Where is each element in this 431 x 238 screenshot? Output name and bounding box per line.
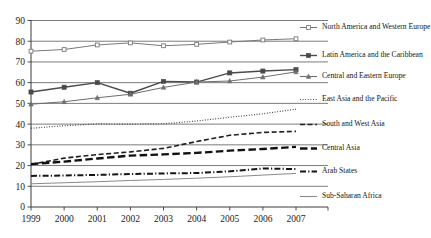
legend-label: Central Asia bbox=[322, 143, 360, 152]
data-point-marker bbox=[62, 85, 66, 89]
series-north-america-and-western-europe bbox=[29, 37, 298, 53]
data-point-marker bbox=[294, 37, 298, 41]
y-tick-labels: 0102030405060708090 bbox=[16, 16, 26, 213]
x-tick-label: 2000 bbox=[55, 214, 74, 224]
data-point-marker bbox=[95, 81, 99, 85]
y-tick-label: 40 bbox=[16, 120, 26, 130]
legend-item-north-america-and-western-europe[interactable]: North America and Western Europe bbox=[300, 22, 431, 31]
chart-container: 0102030405060708090 19992000200120022003… bbox=[0, 0, 431, 238]
data-point-marker bbox=[261, 69, 265, 73]
y-axis bbox=[28, 20, 32, 207]
x-tick-label: 2005 bbox=[220, 214, 239, 224]
legend-label: Sub-Saharan Africa bbox=[322, 191, 382, 200]
y-tick-label: 50 bbox=[16, 99, 26, 109]
data-point-marker bbox=[29, 49, 33, 53]
y-tick-label: 70 bbox=[16, 57, 26, 67]
legend-swatch-marker bbox=[306, 53, 310, 57]
series-south-and-west-asia bbox=[31, 131, 296, 164]
series-central-and-eastern-europe bbox=[29, 69, 299, 106]
y-tick-label: 60 bbox=[16, 78, 26, 88]
y-tick-label: 20 bbox=[16, 161, 26, 171]
x-tick-labels: 199920002001200220032004200520062007 bbox=[22, 214, 306, 224]
data-point-marker bbox=[128, 41, 132, 45]
series-arab-states bbox=[31, 168, 296, 175]
legend-label: Central and Eastern Europe bbox=[322, 71, 406, 80]
x-tick-label: 1999 bbox=[22, 214, 41, 224]
x-tick-label: 2004 bbox=[187, 214, 206, 224]
data-point-marker bbox=[29, 90, 33, 94]
y-tick-label: 90 bbox=[16, 16, 26, 26]
legend-label: North America and Western Europe bbox=[322, 22, 431, 31]
legend-label: South and West Asia bbox=[322, 119, 385, 128]
series-line bbox=[31, 168, 296, 175]
legend-swatch-marker bbox=[307, 26, 311, 30]
legend-item-arab-states[interactable]: Arab States bbox=[300, 166, 357, 175]
data-point-marker bbox=[195, 42, 199, 46]
data-point-marker bbox=[228, 71, 232, 75]
series-line bbox=[31, 131, 296, 164]
chart-legend: North America and Western EuropeLatin Am… bbox=[300, 22, 431, 200]
y-tick-label: 10 bbox=[16, 182, 26, 192]
legend-label: East Asia and the Pacific bbox=[322, 94, 398, 103]
data-point-marker bbox=[162, 44, 166, 48]
legend-item-latin-america-and-the-caribbean[interactable]: Latin America and the Caribbean bbox=[300, 50, 423, 59]
legend-label: Latin America and the Caribbean bbox=[322, 50, 423, 59]
x-axis bbox=[31, 207, 328, 211]
series-line bbox=[31, 147, 296, 164]
legend-item-east-asia-and-the-pacific[interactable]: East Asia and the Pacific bbox=[300, 94, 398, 103]
legend-item-sub-saharan-africa[interactable]: Sub-Saharan Africa bbox=[300, 191, 382, 200]
x-tick-label: 2003 bbox=[154, 214, 173, 224]
data-point-marker bbox=[261, 38, 265, 42]
legend-label: Arab States bbox=[322, 166, 357, 175]
x-tick-label: 2002 bbox=[121, 214, 140, 224]
x-tick-label: 2001 bbox=[88, 214, 107, 224]
data-point-marker bbox=[62, 48, 66, 52]
series-line bbox=[31, 109, 296, 128]
line-chart: 0102030405060708090 19992000200120022003… bbox=[0, 0, 431, 238]
data-point-marker bbox=[228, 40, 232, 44]
data-point-marker bbox=[95, 43, 99, 47]
series-latin-america-and-the-caribbean bbox=[29, 68, 298, 96]
series-east-asia-and-the-pacific bbox=[31, 109, 296, 128]
y-tick-label: 30 bbox=[16, 140, 26, 150]
data-series-group bbox=[29, 37, 299, 184]
legend-item-central-and-eastern-europe[interactable]: Central and Eastern Europe bbox=[300, 71, 406, 80]
x-tick-label: 2007 bbox=[287, 214, 306, 224]
y-tick-label: 0 bbox=[20, 202, 25, 212]
x-tick-label: 2006 bbox=[253, 214, 272, 224]
data-point-marker bbox=[161, 79, 165, 83]
series-central-asia bbox=[31, 147, 296, 164]
y-tick-label: 80 bbox=[16, 37, 26, 47]
